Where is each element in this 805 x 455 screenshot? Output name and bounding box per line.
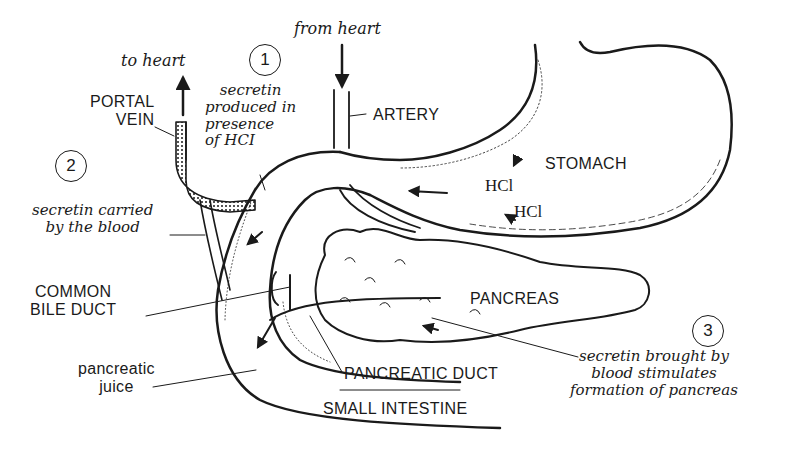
step-3-badge: 3 — [692, 315, 724, 347]
artery — [334, 45, 349, 148]
from-heart-label: from heart — [294, 20, 381, 38]
to-heart-label: to heart — [121, 52, 186, 70]
duct-lines — [270, 185, 440, 320]
portal-vein-label: PORTAL VEIN — [90, 93, 154, 129]
small-intestine-label: SMALL INTESTINE — [323, 400, 467, 418]
pancreas-label: PANCREAS — [470, 290, 559, 308]
flow-arrows — [248, 157, 518, 347]
pancreas-shape — [316, 229, 650, 342]
artery-label: ARTERY — [373, 106, 439, 124]
step-2-badge: 2 — [55, 150, 87, 182]
step-1-text: secretin produced in presence of HCI — [205, 82, 296, 149]
stomach-label: STOMACH — [545, 155, 627, 173]
hcl-label-1: HCl — [485, 176, 513, 195]
step-1-badge: 1 — [249, 44, 281, 76]
common-bile-duct-label: COMMON BILE DUCT — [30, 283, 116, 319]
step-2-text: secretin carried by the blood — [32, 202, 153, 236]
step-3-text: secretin brought by blood stimulates for… — [570, 348, 738, 398]
pancreatic-duct-label: PANCREATIC DUCT — [344, 365, 498, 383]
pancreatic-juice-label: pancreatic juice — [78, 360, 155, 396]
hcl-label-2: HCl — [514, 202, 542, 221]
